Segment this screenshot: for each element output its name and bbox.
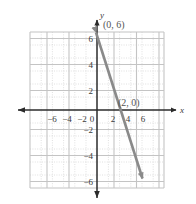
coordinate-graph-figure: −6 −4 −2 0 2 4 6 6 4 2 −2 −4 −6 x y (0, … (0, 0, 196, 204)
x-axis-label: x (179, 105, 184, 115)
y-tick-label-4: 4 (89, 60, 94, 70)
x-tick-label-zero: 0 (90, 114, 95, 124)
y-tick-label-neg4: −4 (83, 151, 93, 161)
y-tick-label-neg6: −6 (83, 177, 93, 187)
point-label-x-intercept: (2, 0) (118, 97, 140, 109)
y-tick-label-neg2: −2 (83, 125, 93, 135)
x-tick-label-neg4: −4 (62, 114, 72, 124)
plot-background (0, 0, 196, 204)
x-tick-label-neg2: −2 (77, 114, 87, 124)
point-label-y-intercept: (0, 6) (103, 19, 125, 31)
y-tick-label-2: 2 (89, 86, 94, 96)
x-tick-label-2: 2 (111, 114, 116, 124)
x-tick-label-neg6: −6 (47, 114, 57, 124)
x-tick-label-6: 6 (141, 114, 146, 124)
y-tick-label-6: 6 (89, 34, 94, 44)
x-tick-label-4: 4 (126, 114, 131, 124)
graph-canvas: −6 −4 −2 0 2 4 6 6 4 2 −2 −4 −6 x y (0, … (0, 0, 196, 204)
